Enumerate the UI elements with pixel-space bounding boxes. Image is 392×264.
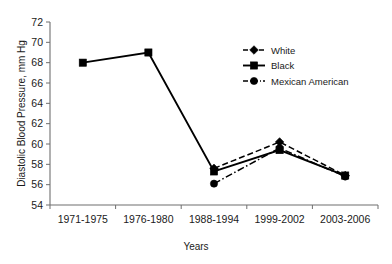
x-axis-title: Years bbox=[0, 241, 392, 252]
x-tick-label: 1988-1994 bbox=[189, 213, 239, 225]
y-axis-title: Diastolic Blood Pressure, mm Hg bbox=[16, 19, 27, 209]
legend-label: Black bbox=[271, 60, 294, 71]
marker-circle bbox=[250, 77, 257, 84]
y-tick-label: 60 bbox=[31, 138, 43, 150]
marker-circle bbox=[210, 180, 217, 187]
x-tick-label: 1999-2002 bbox=[254, 213, 304, 225]
x-tick-label: 2003-2006 bbox=[320, 213, 370, 225]
y-tick-label: 68 bbox=[31, 56, 43, 68]
line-chart-plot: 72706866646260585654 1971-19751976-19801… bbox=[0, 0, 392, 264]
marker-square bbox=[250, 62, 257, 69]
y-tick-label: 70 bbox=[31, 36, 43, 48]
series-markers-group bbox=[79, 49, 349, 187]
chart-legend: WhiteBlackMexican American bbox=[243, 45, 349, 87]
series-markers-black bbox=[79, 49, 349, 179]
chart-container: 72706866646260585654 1971-19751976-19801… bbox=[0, 0, 392, 264]
legend-item-white: White bbox=[243, 45, 295, 56]
marker-circle bbox=[342, 173, 349, 180]
y-tick-label: 56 bbox=[31, 178, 43, 190]
marker-square bbox=[79, 59, 86, 66]
series-markers-white bbox=[210, 138, 350, 180]
y-tick-label: 62 bbox=[31, 117, 43, 129]
y-tick-label: 72 bbox=[31, 16, 43, 28]
marker-diamond bbox=[250, 46, 259, 55]
y-tick-label: 58 bbox=[31, 158, 43, 170]
x-tick-label: 1971-1975 bbox=[58, 213, 108, 225]
marker-circle bbox=[276, 144, 283, 151]
legend-item-black: Black bbox=[243, 60, 294, 71]
y-axis-ticks: 72706866646260585654 bbox=[31, 16, 50, 211]
y-tick-label: 64 bbox=[31, 97, 43, 109]
marker-square bbox=[145, 49, 152, 56]
y-tick-label: 66 bbox=[31, 77, 43, 89]
x-tick-label: 1976-1980 bbox=[123, 213, 173, 225]
legend-label: Mexican American bbox=[271, 76, 349, 87]
x-axis-ticks: 1971-19751976-19801988-19941999-20022003… bbox=[50, 205, 378, 225]
series-line-black bbox=[83, 53, 345, 176]
marker-square bbox=[210, 168, 217, 175]
legend-label: White bbox=[271, 45, 295, 56]
legend-item-mexican-american: Mexican American bbox=[243, 76, 349, 87]
y-tick-label: 54 bbox=[31, 199, 43, 211]
